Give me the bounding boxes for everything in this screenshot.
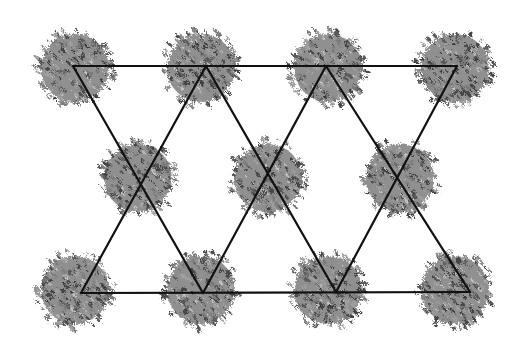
triangle-lattice-diagram xyxy=(0,0,531,354)
foliage-ball xyxy=(286,250,368,330)
triangle-edge-bottom-edge xyxy=(81,292,470,293)
foliage-ball xyxy=(33,249,117,333)
foliage-ball xyxy=(161,27,242,109)
foliage-ball xyxy=(414,249,495,332)
diagram-canvas xyxy=(0,0,531,354)
foliage-ball xyxy=(228,136,309,221)
foliage-ball xyxy=(97,137,178,217)
foliage-ball xyxy=(158,249,241,334)
foliage-ball xyxy=(360,138,442,219)
